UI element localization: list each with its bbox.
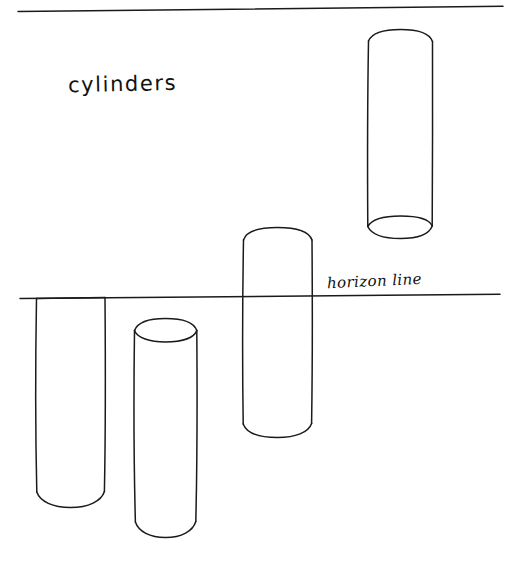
cylinder-lower-front — [134, 319, 197, 538]
title-label: cylinders — [68, 71, 178, 97]
cylinder-lower-left — [36, 298, 105, 508]
cylinder-upper-right — [368, 30, 433, 239]
top-border-rule — [18, 6, 503, 11]
sketch-page: cylinders horizon line — [0, 0, 520, 561]
cylinder-middle-crossing — [243, 228, 313, 438]
